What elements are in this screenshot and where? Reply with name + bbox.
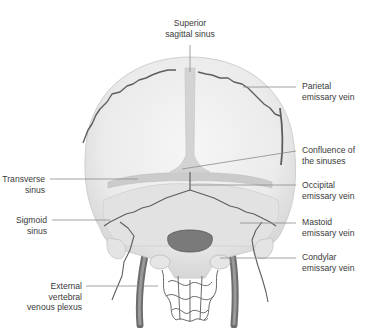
label-external-vertebral-venous-plexus: External vertebral venous plexus (10, 281, 82, 313)
foramen-magnum (168, 230, 213, 252)
label-line: Condylar (302, 252, 355, 263)
label-line: Occipital (302, 180, 355, 191)
label-superior-sagittal-sinus: Superior sagittal sinus (146, 18, 234, 39)
label-line: Sigmoid (0, 215, 47, 226)
label-line: Superior (146, 18, 234, 29)
label-line: emissary vein (302, 228, 355, 239)
label-line: External (10, 281, 82, 292)
label-line: the sinuses (302, 156, 355, 167)
label-line: emissary vein (302, 263, 355, 274)
label-line: sinus (0, 185, 45, 196)
label-line: venous plexus (10, 302, 82, 313)
label-line: Mastoid (302, 217, 355, 228)
label-line: vertebral (10, 292, 82, 303)
label-line: Confluence of (302, 145, 355, 156)
label-parietal-emissary-vein: Parietal emissary vein (302, 81, 355, 102)
label-occipital-emissary-vein: Occipital emissary vein (302, 180, 355, 201)
label-transverse-sinus: Transverse sinus (0, 174, 45, 195)
label-condylar-emissary-vein: Condylar emissary vein (302, 252, 355, 273)
label-line: emissary vein (302, 191, 355, 202)
label-line: emissary vein (302, 92, 355, 103)
label-line: Transverse (0, 174, 45, 185)
anatomy-figure: Superior sagittal sinus Parietal emissar… (0, 0, 379, 328)
label-sigmoid-sinus: Sigmoid sinus (0, 215, 47, 236)
label-line: sagittal sinus (146, 29, 234, 40)
label-line: Parietal (302, 81, 355, 92)
label-confluence-of-sinuses: Confluence of the sinuses (302, 145, 355, 166)
label-mastoid-emissary-vein: Mastoid emissary vein (302, 217, 355, 238)
label-line: sinus (0, 226, 47, 237)
